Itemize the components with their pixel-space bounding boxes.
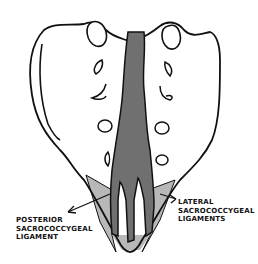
left-lateral-line <box>40 44 60 140</box>
label-line: LIGAMENTS <box>178 215 255 224</box>
right-sacral-foramina <box>155 62 172 165</box>
posterior-sacrococcygeal-ligament <box>111 32 155 242</box>
left-sacral-foramina <box>92 60 112 166</box>
lateral-sacrococcygeal-ligaments-label: LATERAL SACROCOCCYGEAL LIGAMENTS <box>178 198 255 224</box>
right-articular-process <box>162 25 180 49</box>
label-line: POSTERIOR <box>16 216 93 225</box>
posterior-sacrococcygeal-ligament-label: POSTERIOR SACROCOCCYGEAL LIGAMENT <box>16 216 93 242</box>
sacrococcygeal-diagram: POSTERIOR SACROCOCCYGEAL LIGAMENT LATERA… <box>0 0 258 264</box>
left-articular-process <box>87 21 106 46</box>
label-line: LATERAL <box>178 198 255 207</box>
label-line: SACROCOCCYGEAL <box>178 207 255 216</box>
label-line: SACROCOCCYGEAL <box>16 225 93 234</box>
label-line: LIGAMENT <box>16 233 93 242</box>
